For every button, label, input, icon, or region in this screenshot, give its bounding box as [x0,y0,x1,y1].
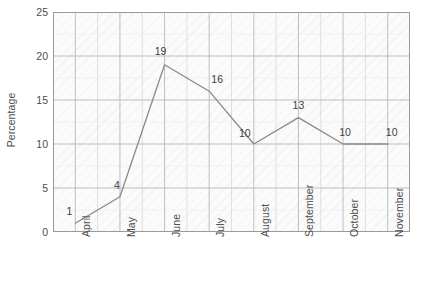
plot-svg [53,12,410,232]
grid-minor-lines [53,12,410,232]
line-chart: Percentage 0510152025 14191610131010 Apr… [0,0,423,301]
y-tick-label: 10 [22,139,48,150]
y-axis-tick-labels: 0510152025 [22,0,48,301]
plot-area [53,12,410,232]
y-tick-label: 15 [22,95,48,106]
y-axis-title-text: Percentage [5,93,17,148]
y-tick-label: 25 [22,7,48,18]
y-axis-title: Percentage [0,0,22,240]
y-tick-label: 0 [22,227,48,238]
x-axis-tick-labels: AprilMayJuneJulyAugustSeptemberOctoberNo… [53,232,410,301]
y-tick-label: 5 [22,183,48,194]
y-tick-label: 20 [22,51,48,62]
